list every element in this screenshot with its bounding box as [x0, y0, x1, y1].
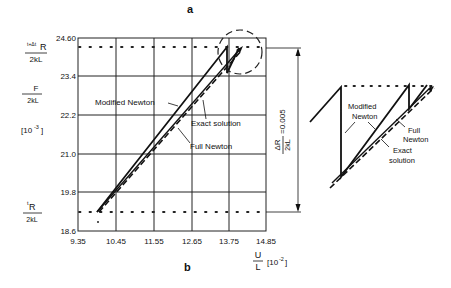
delta-dimension: ΔR 2kL =0.005 — [266, 48, 301, 212]
y-axis-main-label: F 2kL [10 -3 ] — [21, 84, 43, 135]
svg-text:2kL: 2kL — [284, 139, 291, 150]
label-exact-solution: Exact solution — [191, 119, 241, 128]
svg-text:2kL: 2kL — [30, 55, 43, 64]
x-axis-label: U L [10 -2 ] — [253, 250, 287, 272]
svg-text:14.85: 14.85 — [256, 237, 277, 246]
series-exact-solution — [99, 50, 242, 212]
svg-text:]: ] — [41, 126, 43, 135]
svg-text:19.8: 19.8 — [60, 188, 76, 197]
series-full-newton — [97, 49, 240, 212]
inset-detail: Modified Newton Full Newton Exact soluti… — [310, 85, 437, 188]
svg-text:13.75: 13.75 — [219, 237, 240, 246]
svg-text:]: ] — [285, 258, 287, 267]
svg-text:12.65: 12.65 — [182, 237, 203, 246]
start-marker — [97, 221, 99, 223]
y-axis-bottom-label: t R 2kL — [23, 200, 42, 223]
svg-text:18.6: 18.6 — [60, 227, 76, 236]
svg-text:R: R — [29, 202, 36, 212]
y-axis-top-label: t+Δt R 2kL — [25, 41, 47, 64]
panel-label-b: b — [184, 261, 191, 273]
series-annotations: Modified Newton Exact solution Full Newt… — [95, 98, 241, 151]
y-tick-labels: 24.60 23.4 22.2 21.0 19.8 18.6 — [56, 34, 77, 236]
svg-text:L: L — [255, 262, 260, 272]
svg-text:=0.005: =0.005 — [278, 109, 287, 134]
svg-text:U: U — [255, 250, 262, 260]
svg-text:F: F — [34, 84, 39, 93]
label-modified-newton: Modified Newton — [95, 98, 155, 107]
x-tick-labels: 9.35 10.45 11.55 12.65 13.75 14.85 — [70, 237, 276, 246]
chart-figure: a 24.60 23.4 22.2 21.0 19.8 18.6 — [0, 0, 451, 288]
svg-text:solution: solution — [389, 156, 415, 165]
svg-text:Exact: Exact — [393, 146, 413, 155]
svg-text:24.60: 24.60 — [56, 34, 77, 43]
svg-text:[10: [10 — [267, 258, 279, 267]
svg-text:Full: Full — [408, 126, 420, 135]
svg-text:9.35: 9.35 — [70, 237, 86, 246]
svg-text:t+Δt: t+Δt — [27, 41, 37, 47]
label-full-newton: Full Newton — [190, 142, 232, 151]
svg-text:Newton: Newton — [352, 112, 377, 121]
svg-text:ΔR: ΔR — [273, 139, 282, 150]
svg-text:2kL: 2kL — [27, 97, 38, 104]
svg-text:Newton: Newton — [403, 135, 428, 144]
svg-text:-3: -3 — [34, 124, 39, 130]
svg-text:21.0: 21.0 — [60, 150, 76, 159]
svg-text:Modified: Modified — [348, 102, 376, 111]
svg-text:-2: -2 — [279, 256, 284, 262]
svg-text:11.55: 11.55 — [144, 237, 164, 246]
panel-label-a: a — [187, 3, 194, 15]
svg-text:[10: [10 — [21, 126, 33, 135]
svg-text:23.4: 23.4 — [60, 72, 76, 81]
svg-text:22.2: 22.2 — [60, 111, 76, 120]
svg-text:2kL: 2kL — [26, 216, 37, 223]
svg-text:R: R — [40, 42, 47, 52]
svg-text:10.45: 10.45 — [106, 237, 127, 246]
